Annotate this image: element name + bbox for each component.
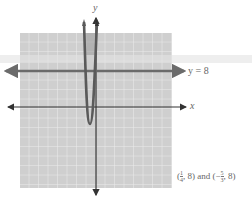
answer-second-y: , 8) bbox=[224, 171, 236, 181]
line-equation-label: y = 8 bbox=[188, 65, 209, 76]
intersection-answer: (14, 8) and (−53, 8) bbox=[177, 170, 236, 183]
coordinate-graph bbox=[0, 0, 252, 197]
x-axis-label: x bbox=[190, 100, 194, 111]
answer-conjunction: and (− bbox=[195, 171, 221, 181]
blur-band bbox=[0, 55, 252, 63]
answer-first-y: , 8) bbox=[183, 171, 195, 181]
parabola-arrow-left-icon bbox=[82, 19, 86, 26]
y-axis-label: y bbox=[93, 2, 97, 13]
